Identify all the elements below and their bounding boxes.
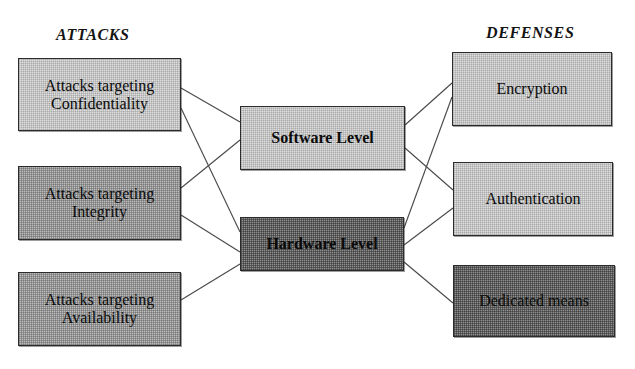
node-label-line1: Attacks targeting (45, 185, 154, 202)
node-label-line1: Attacks targeting (45, 77, 154, 94)
node-label: Encryption (492, 80, 571, 98)
node-authentication[interactable]: Authentication (453, 162, 613, 236)
node-attacks-targeting-confidentiality[interactable]: Attacks targetingConfidentiality (18, 58, 181, 131)
edge-hardware-to-authentication (404, 208, 453, 245)
node-label: Hardware Level (262, 235, 381, 253)
edge-availability-to-hardware (181, 264, 240, 300)
node-software-level[interactable]: Software Level (240, 106, 405, 170)
node-encryption[interactable]: Encryption (452, 52, 612, 126)
node-attacks-targeting-integrity[interactable]: Attacks targetingIntegrity (18, 166, 181, 240)
attacks-column-heading: ATTACKS (56, 26, 130, 44)
node-label: Attacks targetingAvailability (41, 291, 158, 327)
edge-integrity-to-hardware (181, 215, 240, 252)
node-label-line2: Integrity (72, 203, 127, 220)
node-label: Authentication (481, 190, 584, 208)
node-label-line2: Availability (62, 309, 137, 326)
node-label: Attacks targetingConfidentiality (41, 77, 158, 113)
node-hardware-level[interactable]: Hardware Level (240, 217, 404, 271)
edge-software-to-encryption (405, 83, 452, 125)
node-dedicated-means[interactable]: Dedicated means (453, 265, 615, 337)
node-label-line1: Attacks targeting (45, 291, 154, 308)
edge-hardware-to-encryption (404, 97, 452, 228)
node-label-line2: Confidentiality (51, 95, 148, 112)
node-label: Dedicated means (475, 292, 593, 310)
node-attacks-targeting-availability[interactable]: Attacks targetingAvailability (18, 272, 181, 346)
defenses-column-heading: DEFENSES (486, 24, 574, 42)
edge-hardware-to-dedicated (404, 262, 453, 303)
edge-confidentiality-to-software (181, 88, 240, 122)
edge-confidentiality-to-hardware (181, 108, 240, 232)
node-label: Software Level (267, 129, 377, 147)
diagram-canvas: ATTACKS DEFENSES Attacks targetingConfid… (0, 0, 635, 369)
edge-integrity-to-software (181, 140, 240, 188)
node-label: Attacks targetingIntegrity (41, 185, 158, 221)
edge-software-to-authentication (405, 148, 453, 190)
